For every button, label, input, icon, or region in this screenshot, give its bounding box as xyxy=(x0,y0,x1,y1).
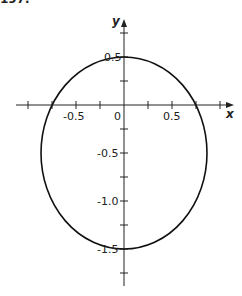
y-axis-arrow-icon xyxy=(121,19,127,27)
y-tick-label-pos-half: 0.5 xyxy=(104,51,122,64)
y-axis-label: y xyxy=(112,14,121,28)
y-tick-label-neg-one-half: -1.5 xyxy=(97,243,118,256)
y-tick-label-neg-half: -0.5 xyxy=(97,147,118,160)
y-tick-label-neg-one: -1.0 xyxy=(97,195,118,208)
x-axis-label: x xyxy=(225,107,235,121)
x-tick-label-pos-half: 0.5 xyxy=(163,110,181,123)
x-tick-label-neg-half: -0.5 xyxy=(63,110,84,123)
chart-plot: y x 0 -0.5 0.5 0.5 -0.5 -1.0 -1.5 xyxy=(0,0,242,296)
x-axis xyxy=(16,101,234,109)
origin-label: 0 xyxy=(114,110,121,123)
